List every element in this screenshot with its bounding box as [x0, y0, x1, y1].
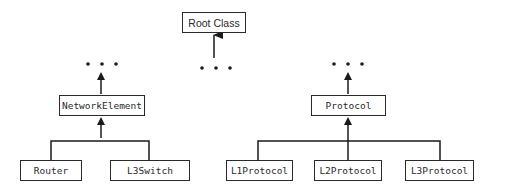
l3protocol-label: L3Protocol: [411, 165, 468, 176]
l3protocol-node: L3Protocol: [405, 160, 474, 181]
protocol-connectors: [258, 72, 440, 160]
network-element-label: NetworkElement: [62, 100, 142, 111]
router-node: Router: [20, 160, 82, 181]
l3switch-label: L3Switch: [127, 165, 173, 176]
protocol-label: Protocol: [326, 100, 372, 111]
router-label: Router: [34, 165, 68, 176]
ellipsis-middle: [200, 66, 232, 70]
l1protocol-label: L1Protocol: [231, 165, 288, 176]
network-element-node: NetworkElement: [59, 95, 145, 116]
ellipsis-right: [332, 62, 364, 66]
protocol-node: Protocol: [311, 95, 386, 116]
root-class-node: Root Class: [182, 12, 246, 33]
l2protocol-node: L2Protocol: [314, 160, 382, 181]
network-element-connectors: [51, 72, 149, 160]
l1protocol-node: L1Protocol: [226, 160, 293, 181]
ellipsis-left: [86, 62, 118, 66]
root-class-label: Root Class: [188, 17, 239, 29]
l3switch-node: L3Switch: [110, 160, 190, 181]
l2protocol-label: L2Protocol: [319, 165, 376, 176]
